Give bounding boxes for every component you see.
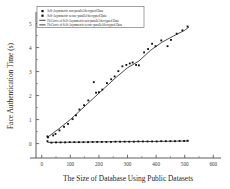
data-point	[151, 43, 153, 45]
x-tick-label: 400	[152, 161, 160, 167]
legend-marker-swatch	[41, 15, 43, 17]
x-tick-label: 100	[66, 161, 74, 167]
data-point	[117, 70, 119, 72]
data-point	[147, 48, 149, 50]
y-tick-label: 5	[29, 21, 32, 27]
data-point	[160, 39, 162, 41]
legend-marker-swatch	[41, 10, 43, 12]
y-tick-label: 1	[29, 117, 32, 123]
x-tick-label: 600	[209, 161, 217, 167]
data-point	[143, 51, 145, 53]
data-point	[52, 135, 54, 137]
y-axis-title: Face Authentication Time (s)	[6, 42, 15, 129]
data-point	[114, 75, 116, 77]
x-tick-label: 300	[124, 161, 132, 167]
x-tick-label: 0	[40, 161, 43, 167]
chart-canvas: 0123450100200300400500600 The Size of Da…	[0, 0, 230, 189]
data-point	[125, 64, 127, 66]
data-point	[110, 78, 112, 80]
chart-background	[0, 0, 230, 189]
x-tick-label: 200	[95, 161, 103, 167]
data-point	[63, 126, 65, 128]
x-tick-label: 500	[181, 161, 189, 167]
data-point	[106, 82, 108, 84]
legend-label: Self-Asymmetric secure-parallel/decrypte…	[47, 14, 107, 18]
data-point	[67, 123, 69, 125]
data-point	[132, 62, 134, 64]
y-tick-label: 0	[29, 141, 32, 147]
legend-label: Fit Curve of Self-Asymmetric secure-para…	[47, 23, 122, 27]
data-point	[87, 99, 89, 101]
data-point	[167, 45, 169, 47]
data-point	[121, 65, 123, 67]
legend-label: Fit Curve of Self-Asymmetric non-paralle…	[47, 19, 119, 23]
data-point	[59, 129, 61, 131]
data-point	[95, 92, 97, 94]
chart-legend: Self-Asymmetric non-parallel/decrypted D…	[37, 7, 144, 28]
data-point	[47, 140, 49, 142]
data-point	[129, 63, 131, 65]
data-point	[138, 64, 140, 66]
data-point	[55, 133, 57, 135]
chart-figure: 0123450100200300400500600 The Size of Da…	[0, 0, 230, 189]
data-point	[93, 81, 95, 83]
x-axis-title: The Size of Database Using Public Datase…	[63, 174, 193, 183]
legend-label: Self-Asymmetric non-parallel/decrypted D…	[47, 9, 103, 13]
y-tick-label: 2	[29, 93, 32, 99]
data-point	[135, 64, 137, 66]
y-tick-label: 3	[29, 69, 32, 75]
data-point	[170, 39, 172, 41]
y-tick-label: 4	[29, 45, 32, 51]
